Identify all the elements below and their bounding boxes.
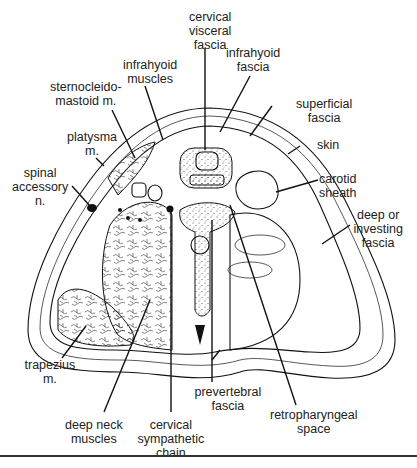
label-prevertebral-fascia: prevertebral fascia	[195, 385, 262, 413]
label-deep-neck-muscles: deep neck muscles	[65, 418, 123, 446]
label-sternocleidomastoid-m: sternocleido- mastoid m.	[50, 80, 122, 108]
label-infrahyoid-fascia: infrahyoid fascia	[226, 46, 280, 74]
figure-bottom-rule	[0, 455, 417, 457]
ligamentum-nuchae	[195, 325, 205, 345]
label-deep-or-investing-fascia: deep or investing fascia	[354, 208, 403, 250]
label-retropharyngeal-space: retropharyngeal space	[270, 408, 358, 436]
vessel-outline	[148, 185, 162, 201]
esophagus	[190, 175, 224, 185]
label-cervical-sympathetic-chain: cervical sympathetic chain	[138, 418, 205, 460]
label-infrahyoid-muscles: infrahyoid muscles	[123, 58, 177, 86]
label-spinal-accessory-n: spinal accessory n.	[12, 166, 68, 208]
sympathetic-chain-node	[167, 206, 174, 213]
right-muscle-region	[230, 213, 300, 350]
vertebra	[180, 203, 235, 316]
label-platysma-m: platysma m.	[67, 130, 117, 158]
label-skin: skin	[317, 138, 339, 152]
vessel-outline	[132, 183, 146, 197]
label-trapezius-m: trapezius m.	[25, 358, 76, 386]
label-superficial-fascia: superficial fascia	[296, 97, 352, 125]
carotid-sheath-shape	[236, 171, 278, 209]
label-carotid-sheath: carotid sheath	[319, 172, 357, 200]
